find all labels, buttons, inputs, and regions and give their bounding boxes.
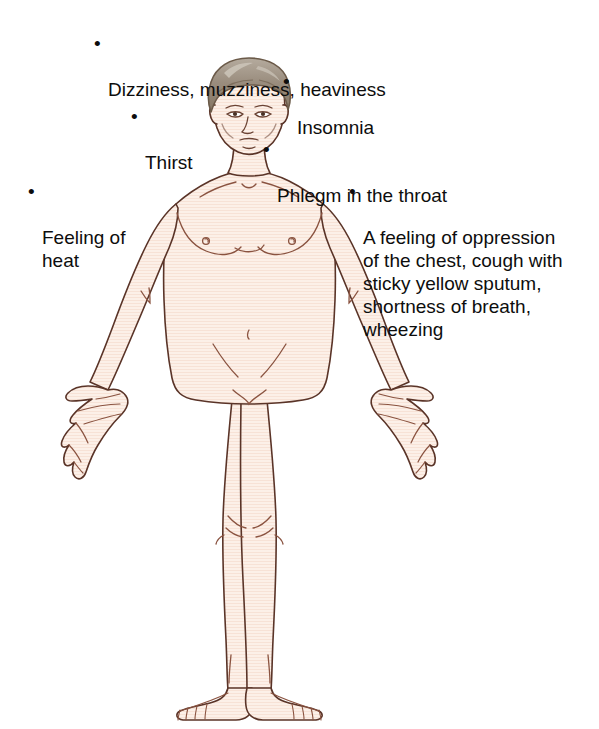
right-foot <box>246 688 323 720</box>
annotation-chest-oppression-label: A feeling of oppression of the chest, co… <box>363 226 597 341</box>
bullet-icon: • <box>263 138 277 161</box>
annotation-feeling-of-heat-label: Feeling of heat <box>42 226 178 272</box>
left-foot <box>177 688 254 720</box>
left-hand <box>61 386 127 479</box>
right-hand <box>371 386 437 479</box>
annotation-feeling-of-heat: • Feeling of heat <box>28 180 178 295</box>
annotation-thirst-label: Thirst <box>145 151 281 174</box>
right-leg <box>241 390 277 690</box>
bullet-icon: • <box>131 105 145 128</box>
annotation-chest-oppression: • A feeling of oppression of the chest, … <box>349 180 597 364</box>
annotation-insomnia-label: Insomnia <box>297 116 463 139</box>
bullet-icon: • <box>349 180 363 203</box>
symptom-diagram-page: • Dizziness, muzziness, heaviness • Inso… <box>0 0 599 729</box>
bullet-icon: • <box>94 32 108 55</box>
bullet-icon: • <box>28 180 42 203</box>
bullet-icon: • <box>283 70 297 93</box>
